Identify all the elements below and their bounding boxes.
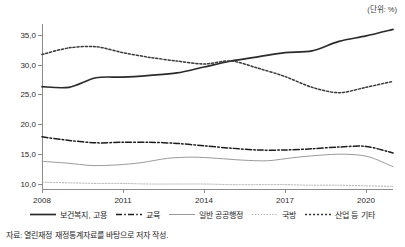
x-tick-label: 2011 [114, 196, 131, 205]
x-tick-label: 2017 [276, 196, 294, 205]
y-tick-label: 35,0 [20, 30, 36, 39]
chart-figure: (단위: %) 10,015,020,025,030,035,0 2008201… [0, 0, 405, 247]
y-tick-label: 25,0 [20, 90, 36, 99]
legend-item[interactable]: 교육 [116, 209, 160, 220]
series-lines [42, 24, 393, 190]
legend-swatch-icon [252, 210, 278, 219]
y-tick-label: 10,0 [20, 180, 36, 189]
series-line [42, 182, 393, 186]
y-tick-label: 30,0 [20, 60, 36, 69]
y-tick-label: 20,0 [20, 120, 36, 129]
legend-swatch-icon [30, 210, 56, 219]
series-line [42, 46, 393, 92]
legend-label: 국방 [282, 209, 296, 220]
series-line [42, 137, 393, 153]
source-note: 자료: 열린재정 재정통계자료를 바탕으로 저자 작성. [6, 229, 169, 240]
y-tick-label: 15,0 [20, 150, 36, 159]
x-tick-label: 2014 [195, 196, 213, 205]
legend-label: 산업 등 기타 [335, 209, 374, 220]
legend-swatch-icon [305, 210, 331, 219]
legend-label: 일반 공공행정 [199, 209, 243, 220]
legend-label: 교육 [146, 209, 160, 220]
legend-swatch-icon [169, 210, 195, 219]
legend-item[interactable]: 보건복지, 고용 [30, 209, 106, 220]
legend-item[interactable]: 국방 [252, 209, 296, 220]
legend-item[interactable]: 산업 등 기타 [305, 209, 374, 220]
legend-label: 보건복지, 고용 [60, 209, 106, 220]
series-line [42, 29, 393, 87]
legend-item[interactable]: 일반 공공행정 [169, 209, 243, 220]
plot-area: 10,015,020,025,030,035,0 200820112014201… [42, 24, 393, 190]
unit-label: (단위: %) [367, 3, 397, 14]
x-tick-label: 2008 [33, 196, 51, 205]
legend-swatch-icon [116, 210, 142, 219]
series-line [42, 154, 393, 167]
chart-legend: 보건복지, 고용교육일반 공공행정국방산업 등 기타 [0, 205, 405, 223]
x-tick-label: 2020 [357, 196, 375, 205]
